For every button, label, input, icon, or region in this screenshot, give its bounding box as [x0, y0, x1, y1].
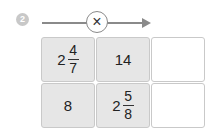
answer-cell-r2c3[interactable]: [151, 83, 205, 128]
denominator: 8: [124, 107, 132, 122]
numerator: 5: [124, 89, 132, 104]
whole-part: 2: [112, 97, 120, 114]
mixed-number: 2 4 7: [57, 43, 78, 76]
answer-grid: 2 4 7 14 8 2 5 8: [41, 37, 205, 128]
denominator: 7: [69, 61, 77, 76]
arrow-right-icon: [142, 18, 151, 28]
grid-cell-r1c2: 14: [96, 37, 150, 82]
answer-cell-r1c3[interactable]: [151, 37, 205, 82]
grid-cell-r2c1: 8: [41, 83, 95, 128]
problem-number-badge: 2: [16, 13, 29, 26]
fraction: 4 7: [68, 43, 79, 76]
grid-cell-r2c2: 2 5 8: [96, 83, 150, 128]
multiply-icon: ×: [86, 11, 108, 33]
mixed-number: 2 5 8: [112, 89, 133, 122]
whole-part: 2: [57, 51, 65, 68]
grid-cell-r1c1: 2 4 7: [41, 37, 95, 82]
fraction: 5 8: [123, 89, 134, 122]
numerator: 4: [69, 43, 77, 58]
